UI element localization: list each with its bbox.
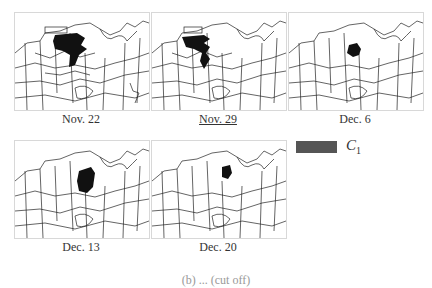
map-panel-dec20: [151, 140, 287, 239]
panel-label-dec6: Dec. 6: [288, 112, 422, 127]
highlight-region: [182, 35, 210, 69]
panel-label-dec20: Dec. 20: [151, 240, 285, 255]
legend-swatch: [296, 141, 337, 153]
highlight-region: [347, 43, 361, 57]
legend-label: C1: [346, 137, 361, 156]
map-panel-dec13: [14, 140, 150, 239]
map-nov29: [152, 13, 286, 110]
highlight-region: [77, 167, 95, 193]
panel-label-nov22: Nov. 22: [14, 112, 148, 127]
map-dec6: [289, 13, 423, 110]
map-panel-nov22: [14, 12, 150, 111]
highlight-region: [53, 33, 87, 67]
map-panel-dec6: [288, 12, 424, 111]
map-dec13: [15, 141, 149, 238]
map-dec20: [152, 141, 286, 238]
panel-label-dec13: Dec. 13: [14, 240, 148, 255]
highlight-region: [222, 165, 232, 179]
map-nov22: [15, 13, 149, 110]
figure-caption: (b) ... (cut off): [0, 273, 432, 288]
map-panel-nov29: [151, 12, 287, 111]
panel-label-nov29: Nov. 29: [151, 112, 285, 127]
